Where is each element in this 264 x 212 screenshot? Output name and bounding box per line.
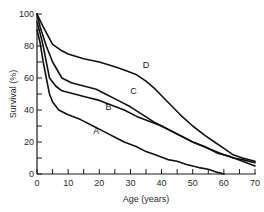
y-tick-label: 60 bbox=[24, 73, 34, 83]
curve-label-d: D bbox=[143, 60, 150, 70]
y-axis-title: Survival (%) bbox=[8, 70, 18, 119]
x-tick-label: 30 bbox=[125, 178, 135, 188]
curve-d bbox=[37, 14, 255, 161]
x-tick-label: 0 bbox=[34, 178, 39, 188]
curve-label-b: B bbox=[106, 102, 112, 112]
survival-chart: 010203040506070020406080100 DCBA Age (ye… bbox=[0, 0, 264, 212]
y-tick-label: 20 bbox=[24, 137, 34, 147]
y-tick-label: 0 bbox=[29, 169, 34, 179]
x-tick-label: 50 bbox=[188, 178, 198, 188]
curve-labels: DCBA bbox=[93, 60, 150, 136]
y-tick-label: 80 bbox=[24, 41, 34, 51]
x-axis-title: Age (years) bbox=[123, 194, 170, 204]
x-tick-label: 20 bbox=[94, 178, 104, 188]
ticks: 010203040506070020406080100 bbox=[19, 9, 260, 188]
x-tick-label: 60 bbox=[219, 178, 229, 188]
x-tick-label: 40 bbox=[157, 178, 167, 188]
y-tick-label: 100 bbox=[19, 9, 34, 19]
curve-b bbox=[37, 22, 255, 166]
x-tick-label: 70 bbox=[250, 178, 260, 188]
curve-label-a: A bbox=[93, 126, 99, 136]
x-tick-label: 10 bbox=[63, 178, 73, 188]
y-tick-label: 40 bbox=[24, 105, 34, 115]
curve-label-c: C bbox=[130, 86, 137, 96]
plot-area bbox=[37, 14, 255, 174]
curve-c bbox=[37, 14, 255, 163]
